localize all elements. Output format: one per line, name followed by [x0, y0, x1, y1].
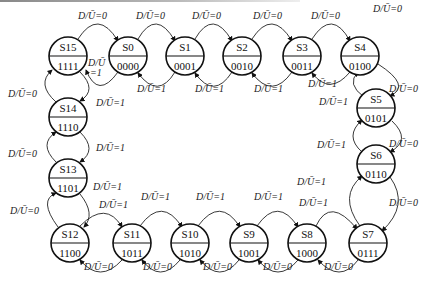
state-s6: S60110 — [357, 145, 395, 183]
label-s4-s3: D/Ū=1 — [307, 78, 337, 89]
label-s0-s15-bottom: =1 — [90, 67, 102, 78]
arcs-left — [45, 70, 89, 227]
label-s4-top: D/Ū=0 — [372, 3, 402, 14]
label-s14-s15: D/Ū=0 — [7, 88, 37, 99]
label-s9-s8: D/Ū=1 — [253, 191, 283, 202]
svg-text:1010: 1010 — [179, 247, 202, 259]
label-s8-s9: D/Ū=0 — [262, 261, 292, 272]
label-s11-s10: D/Ū=1 — [140, 191, 170, 202]
svg-text:S0: S0 — [122, 41, 134, 53]
svg-text:1001: 1001 — [238, 247, 260, 259]
label-s7-s6: D/Ū=1 — [296, 176, 326, 187]
svg-text:S14: S14 — [59, 102, 77, 114]
label-s3-s2: D/Ū=1 — [253, 83, 283, 94]
svg-text:1101: 1101 — [57, 182, 79, 194]
svg-text:S7: S7 — [362, 228, 374, 240]
svg-text:S3: S3 — [296, 41, 308, 53]
state-s13: S131101 — [49, 159, 87, 197]
state-s9: S91001 — [230, 224, 268, 262]
label-s1-s2: D/Ū=0 — [191, 10, 221, 21]
svg-text:S11: S11 — [124, 228, 141, 240]
label-s6-s7: D/Ū=0 — [388, 197, 418, 208]
svg-text:0011: 0011 — [291, 60, 313, 72]
label-s15-s14: D/Ū=1 — [95, 97, 125, 108]
state-s10: S101010 — [171, 224, 209, 262]
svg-text:1111: 1111 — [58, 60, 79, 72]
state-s2: S20010 — [223, 37, 261, 75]
state-s15: S151111 — [49, 37, 87, 75]
state-s0: S00000 — [109, 37, 147, 75]
svg-text:0100: 0100 — [349, 60, 372, 72]
svg-text:0111: 0111 — [357, 247, 378, 259]
svg-text:S9: S9 — [243, 228, 255, 240]
label-s5-s6: D/Ū=0 — [388, 138, 418, 149]
svg-text:S5: S5 — [370, 93, 382, 105]
label-s6-s5: D/Ū=1 — [316, 139, 346, 150]
svg-text:0001: 0001 — [174, 60, 196, 72]
state-diagram: D/Ū=0 D/Ū=0 D/Ū=0 D/Ū=0 D/Ū=0 D/Ū=0 D/Ū … — [0, 0, 424, 288]
label-s9-s10: D/Ū=0 — [202, 261, 232, 272]
svg-text:S13: S13 — [59, 163, 77, 175]
label-s13-s14: D/Ū=0 — [7, 148, 37, 159]
svg-text:0000: 0000 — [117, 60, 140, 72]
label-s7-s8: D/Ū=0 — [323, 261, 353, 272]
svg-text:S6: S6 — [370, 149, 382, 161]
label-s10-s9: D/Ū=1 — [195, 191, 225, 202]
svg-text:1110: 1110 — [57, 121, 79, 133]
state-s14: S141110 — [49, 98, 87, 136]
svg-text:S15: S15 — [59, 41, 77, 53]
state-s8: S81000 — [288, 224, 326, 262]
svg-text:S4: S4 — [354, 41, 366, 53]
label-s13-s12: D/Ū=1 — [92, 181, 122, 192]
svg-text:1100: 1100 — [59, 247, 81, 259]
label-s2-s1: D/Ū=1 — [194, 83, 224, 94]
state-s7: S70111 — [349, 224, 387, 262]
svg-text:0101: 0101 — [365, 112, 387, 124]
label-s8-s7: D/Ū=1 — [298, 197, 328, 208]
label-s14-s13: D/Ū=1 — [95, 142, 125, 153]
svg-text:S2: S2 — [236, 41, 248, 53]
svg-text:S12: S12 — [61, 228, 78, 240]
label-s12-s11: D/Ū=1 — [98, 199, 128, 210]
svg-text:1000: 1000 — [296, 247, 319, 259]
label-s3-s4: D/Ū=0 — [310, 10, 340, 21]
label-s10-s11: D/Ū=0 — [142, 261, 172, 272]
label-s12-s13: D/Ū=0 — [9, 205, 39, 216]
state-s11: S111011 — [113, 224, 151, 262]
state-s1: S10001 — [166, 37, 204, 75]
label-s4-s5: D/Ū=0 — [388, 83, 418, 94]
svg-text:1011: 1011 — [121, 247, 143, 259]
svg-text:0010: 0010 — [231, 60, 254, 72]
state-s5: S50101 — [357, 89, 395, 127]
state-s4: S40100 — [341, 37, 379, 75]
svg-text:S10: S10 — [181, 228, 199, 240]
label-s5-s4: D/Ū=1 — [318, 96, 348, 107]
label-s1-s0: D/Ū=1 — [136, 83, 166, 94]
state-s12: S121100 — [51, 224, 89, 262]
label-s0-s1: D/Ū=0 — [135, 10, 165, 21]
svg-text:S8: S8 — [301, 228, 313, 240]
label-s15-s0: D/Ū=0 — [77, 10, 107, 21]
svg-text:0110: 0110 — [365, 168, 387, 180]
label-s11-s12: D/Ū=0 — [83, 261, 113, 272]
label-s2-s3: D/Ū=0 — [252, 10, 282, 21]
state-s3: S30011 — [283, 37, 321, 75]
svg-text:S1: S1 — [179, 41, 191, 53]
